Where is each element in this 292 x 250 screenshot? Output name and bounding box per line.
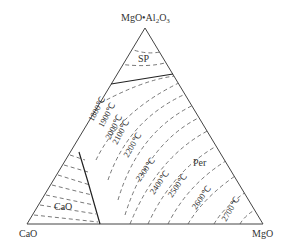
phase-label-sp: SP (138, 53, 150, 64)
isotherm-label: 2300℃ (133, 155, 157, 183)
phase-label-per: Per (193, 157, 207, 168)
sp-boundary (111, 74, 173, 84)
isotherm-lines (34, 48, 258, 224)
vertex-label-top: MgO•Al2O3 (121, 12, 170, 25)
phase-label-cao: CaO (54, 201, 72, 212)
isotherm-label: 2700℃ (219, 195, 241, 223)
isotherm-labels: 1800℃ 1900℃ 2000℃ 2100℃ 2200℃ 2300℃ 2400… (86, 94, 241, 223)
vertex-label-right: MgO (252, 228, 273, 239)
ternary-diagram: 1800℃ 1900℃ 2000℃ 2100℃ 2200℃ 2300℃ 2400… (0, 0, 292, 250)
vertex-label-left: CaO (19, 228, 37, 239)
